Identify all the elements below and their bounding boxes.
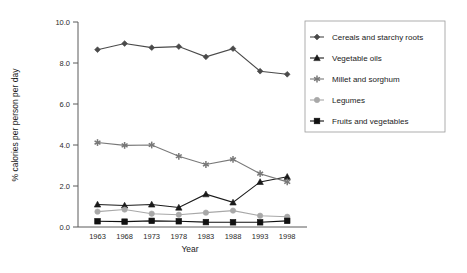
x-tick-label: 1993: [252, 232, 269, 241]
data-point-diamond: [149, 45, 155, 51]
chart-legend: Cereals and starchy rootsVegetable oilsM…: [305, 21, 445, 132]
y-axis-ticks: 0.02.04.06.08.010.0: [55, 18, 78, 232]
data-point-circle: [230, 208, 235, 213]
x-axis-ticks: 19631968197319781983198819931998: [89, 232, 295, 241]
data-point-diamond: [122, 41, 128, 47]
x-tick-label: 1963: [89, 232, 106, 241]
y-tick-label: 6.0: [60, 100, 70, 109]
data-point-diamond: [203, 54, 209, 60]
y-tick-label: 2.0: [60, 182, 70, 191]
legend-marker-circle: [314, 97, 319, 102]
x-tick-label: 1968: [116, 232, 133, 241]
y-tick-label: 10.0: [55, 18, 70, 27]
data-point-circle: [203, 210, 208, 215]
data-point-square: [230, 219, 236, 225]
series-4: [95, 207, 290, 220]
data-point-square: [284, 218, 290, 224]
y-tick-label: 4.0: [60, 141, 70, 150]
y-tick-label: 0.0: [60, 223, 70, 232]
series-1: [95, 41, 291, 78]
data-point-square: [176, 218, 182, 224]
legend-label: Millet and sorghum: [332, 75, 400, 84]
x-tick-label: 1988: [225, 232, 242, 241]
line-chart: % calories per person per day Year 0.02.…: [0, 0, 467, 273]
legend-marker-square: [314, 118, 320, 124]
x-axis-title: Year: [181, 244, 198, 254]
data-point-circle: [257, 213, 262, 218]
y-tick-label: 8.0: [60, 59, 70, 68]
data-point-diamond: [284, 71, 290, 77]
x-tick-label: 1983: [198, 232, 215, 241]
data-point-circle: [149, 211, 154, 216]
data-point-square: [122, 219, 128, 225]
data-point-circle: [176, 212, 181, 217]
data-point-triangle: [203, 191, 209, 197]
x-tick-label: 1998: [279, 232, 296, 241]
series-2: [94, 174, 290, 211]
data-point-square: [257, 219, 263, 225]
legend-label: Legumes: [332, 96, 365, 105]
series-3: [95, 139, 291, 185]
series-5: [95, 218, 290, 225]
legend-label: Cereals and starchy roots: [332, 33, 423, 42]
legend-label: Fruits and vegetables: [332, 117, 409, 126]
x-tick-label: 1973: [143, 232, 160, 241]
data-point-diamond: [95, 47, 101, 53]
legend-label: Vegetable oils: [332, 54, 382, 63]
chart-figure: % calories per person per day Year 0.02.…: [0, 0, 467, 273]
x-tick-label: 1978: [170, 232, 187, 241]
data-point-diamond: [176, 44, 182, 50]
data-point-square: [149, 218, 155, 224]
data-point-star: [176, 153, 182, 160]
data-point-circle: [122, 207, 127, 212]
data-point-square: [203, 219, 209, 225]
data-point-square: [95, 218, 101, 224]
series-layer: [94, 41, 290, 225]
y-axis-title: % calories per person per day: [10, 68, 20, 182]
data-point-circle: [95, 209, 100, 214]
data-point-star: [257, 170, 263, 177]
series-line: [98, 143, 288, 182]
